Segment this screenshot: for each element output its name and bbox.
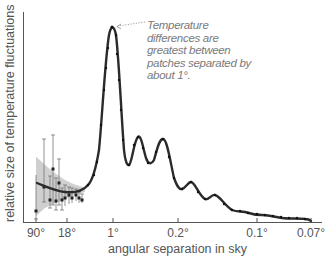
x-tick-label-90: 90° <box>27 226 45 240</box>
x-ticks <box>36 218 311 222</box>
annotation-leader <box>118 22 145 26</box>
annotation-arrowhead <box>117 24 121 29</box>
x-tick-label-18: 18° <box>58 226 76 240</box>
x-tick-label-0-1: 0.1° <box>246 226 267 240</box>
y-axis-label: relative size of temperature fluctuation… <box>3 12 17 222</box>
x-tick-label-0-07: 0.07° <box>297 226 325 240</box>
x-axis-label: angular separation in sky <box>0 242 333 256</box>
peak-annotation: Temperature differences are greatest bet… <box>147 19 257 82</box>
x-tick-label-1: 1° <box>107 226 118 240</box>
x-tick-label-0-2: 0.2° <box>167 226 188 240</box>
